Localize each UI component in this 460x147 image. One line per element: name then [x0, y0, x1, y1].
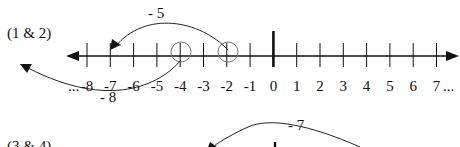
tick-label: -1: [244, 78, 257, 94]
tick-label: -3: [197, 78, 210, 94]
circled-point-neg4: [171, 42, 191, 62]
tick-label: 7: [433, 78, 441, 94]
tick-label: 4: [363, 78, 371, 94]
jump-label-minus-5: - 5: [148, 5, 164, 21]
arrow-head-icon: [110, 39, 121, 50]
tick-label: -4: [174, 78, 187, 94]
tick-marks: [87, 31, 437, 67]
tick-label: 2: [316, 78, 324, 94]
tick-label: 3: [340, 78, 348, 94]
jump-arc-minus-5: [115, 23, 228, 50]
jump-label-minus-8: - 8: [100, 89, 116, 105]
right-arrow-icon: [446, 51, 459, 61]
tick-label: 0: [270, 78, 278, 94]
tick-label: 1: [293, 78, 301, 94]
tick-labels: -8-7-6-5-4-3-2-101234567......: [68, 78, 454, 94]
arrow-head-icon: [20, 64, 32, 73]
circled-point-neg2: [218, 42, 238, 62]
number-line-axis: [66, 51, 459, 61]
jump-arc-minus-7: [214, 123, 360, 147]
tick-label: -5: [151, 78, 164, 94]
tick-label: -8: [81, 78, 94, 94]
tick-label: -2: [221, 78, 234, 94]
right-ellipsis: ...: [443, 78, 454, 94]
jump-label-minus-7: - 7: [288, 117, 305, 133]
problem-label-1-2: (1 & 2): [7, 25, 51, 42]
tick-label: 5: [386, 78, 394, 94]
left-arrow-icon: [66, 51, 79, 61]
number-line-diagram: (1 & 2) -8-7-6-5-4-3-2-101234567...... -…: [0, 0, 460, 147]
problem-label-3-4: (3 & 4): [7, 138, 51, 147]
tick-label: -6: [127, 78, 140, 94]
tick-label: 6: [409, 78, 417, 94]
